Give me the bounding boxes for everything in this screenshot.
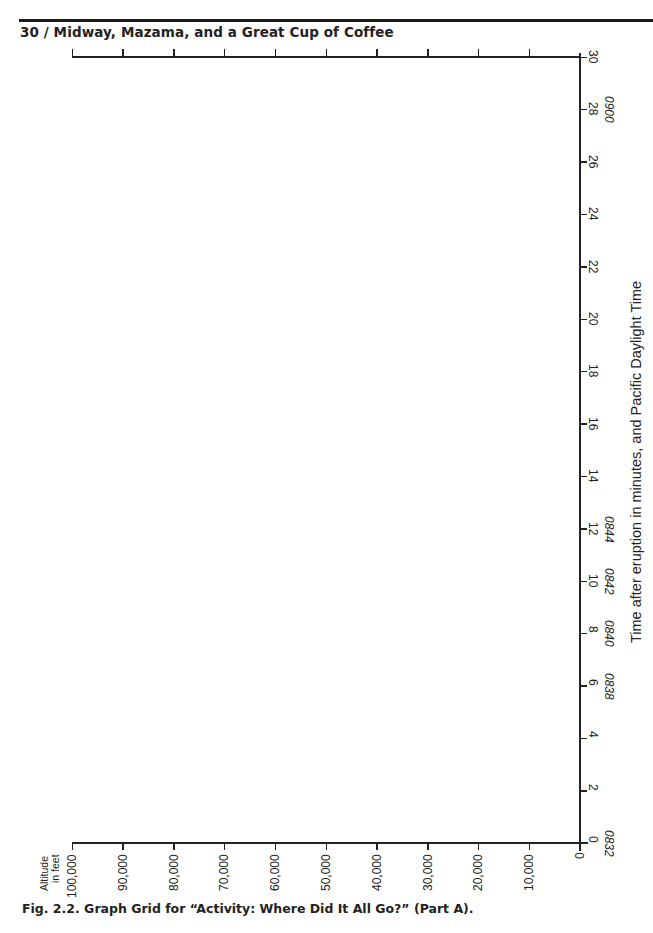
time-tick-label: 18 — [587, 364, 599, 377]
altitude-tick-top — [173, 49, 175, 57]
time-tick-label: 28 — [587, 102, 599, 115]
pdt-time-label: 0840 — [603, 620, 615, 647]
altitude-tick-bottom — [478, 842, 480, 850]
altitude-tick-top — [529, 49, 531, 57]
time-tick-label: 4 — [587, 731, 599, 738]
time-tick — [580, 633, 587, 635]
header-rule — [19, 19, 653, 22]
altitude-tick-label: 100,000 — [66, 854, 78, 897]
altitude-axis-title-line1: Altitude — [39, 856, 50, 891]
time-axis-title: Time after eruption in minutes, and Paci… — [628, 281, 644, 643]
altitude-tick-bottom — [173, 842, 175, 850]
pdt-time-label: 0838 — [603, 673, 615, 700]
altitude-tick-bottom — [376, 842, 378, 850]
altitude-tick-top — [122, 49, 124, 57]
altitude-tick-top — [376, 49, 378, 57]
time-tick-label: 6 — [587, 679, 599, 686]
altitude-tick-label: 30,000 — [422, 855, 434, 892]
altitude-tick-top — [275, 49, 277, 57]
altitude-tick-top — [72, 49, 74, 57]
time-tick-label: 14 — [587, 469, 599, 482]
altitude-tick-bottom — [275, 842, 277, 850]
pdt-time-label: 0900 — [603, 96, 615, 123]
time-axis-line — [579, 53, 581, 851]
altitude-tick-label: 70,000 — [218, 855, 230, 892]
altitude-tick-label: 80,000 — [168, 855, 180, 892]
time-tick-label: 0 — [587, 836, 599, 843]
altitude-tick-label: 50,000 — [320, 855, 332, 892]
time-tick-label: 10 — [587, 574, 599, 587]
altitude-tick-top — [478, 49, 480, 57]
altitude-tick-top — [427, 49, 429, 57]
bottom-axis-line — [72, 842, 588, 844]
altitude-tick-bottom — [427, 842, 429, 850]
time-tick-label: 12 — [587, 522, 599, 535]
pdt-time-label: 0832 — [603, 830, 615, 857]
time-tick-label: 8 — [587, 626, 599, 633]
altitude-tick-bottom — [224, 842, 226, 850]
figure-caption: Fig. 2.2. Graph Grid for “Activity: Wher… — [22, 901, 474, 916]
time-tick-label: 22 — [587, 260, 599, 273]
altitude-tick-label: 40,000 — [371, 855, 383, 892]
altitude-tick-label: 60,000 — [269, 855, 281, 892]
altitude-axis-title-line2: in feet — [50, 854, 61, 883]
time-tick-label: 16 — [587, 417, 599, 430]
altitude-tick-bottom — [122, 842, 124, 850]
altitude-tick-bottom — [72, 842, 74, 850]
altitude-tick-label: 10,000 — [523, 855, 535, 892]
altitude-tick-top — [224, 49, 226, 57]
running-head: 30 / Midway, Mazama, and a Great Cup of … — [20, 24, 394, 40]
pdt-time-label: 0842 — [603, 568, 615, 595]
altitude-tick-bottom — [326, 842, 328, 850]
altitude-tick-bottom — [529, 842, 531, 850]
time-tick-label: 26 — [587, 155, 599, 168]
time-tick-label: 24 — [587, 207, 599, 220]
time-tick-label: 2 — [587, 784, 599, 791]
time-tick-label: 20 — [587, 312, 599, 325]
pdt-time-label: 0844 — [603, 516, 615, 543]
altitude-tick-label: 90,000 — [117, 855, 129, 892]
altitude-tick-label: 0 — [574, 853, 586, 860]
altitude-tick-label: 20,000 — [472, 855, 484, 892]
time-tick-label: 30 — [587, 50, 599, 63]
altitude-tick-top — [326, 49, 328, 57]
